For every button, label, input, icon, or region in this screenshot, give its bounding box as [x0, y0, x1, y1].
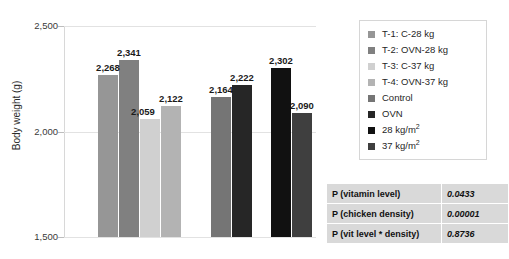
bar [271, 68, 291, 237]
legend-item-label: T-3: C-37 kg [382, 61, 434, 71]
pvalue-value-cell: 0.00001 [442, 204, 509, 224]
legend-item: Control [368, 90, 480, 106]
legend-item-label: 37 kg/m2 [382, 141, 420, 151]
legend-item-label: T-4: OVN-37 kg [382, 77, 448, 87]
y-tick-1500 [58, 237, 64, 238]
y-axis-tick-labels: 1,5002,0002,500 [18, 26, 58, 237]
chart-legend: T-1: C-28 kgT-2: OVN-28 kgT-3: C-37 kgT-… [359, 20, 487, 160]
legend-swatch-icon [368, 31, 375, 38]
gridline-2500 [64, 26, 316, 27]
bar [232, 85, 252, 237]
legend-swatch-icon [368, 79, 375, 86]
bar-value-label: 2,122 [150, 93, 192, 104]
legend-swatch-icon [368, 127, 375, 134]
bar [211, 97, 231, 237]
y-tick-2500 [58, 26, 64, 27]
legend-item-label: OVN [382, 109, 403, 119]
y-tick-label-1500: 1,500 [34, 232, 58, 242]
legend-item: OVN [368, 106, 480, 122]
legend-swatch-icon [368, 47, 375, 54]
legend-item: T-2: OVN-28 kg [368, 42, 480, 58]
legend-swatch-icon [368, 63, 375, 70]
bar-value-label: 2,268 [87, 62, 129, 73]
pvalue-name-cell: P (vit level * density) [327, 224, 442, 244]
legend-item: 37 kg/m2 [368, 138, 480, 154]
bar [161, 106, 181, 237]
bar [292, 113, 312, 237]
bar [119, 60, 139, 237]
bar-value-label: 2,302 [260, 55, 302, 66]
pvalue-value-cell: 0.8736 [442, 224, 509, 244]
y-tick-2000 [58, 132, 64, 133]
bar-value-label: 2,222 [221, 72, 263, 83]
table-row: P (chicken density)0.00001 [327, 204, 509, 224]
bar-value-label: 2,059 [122, 106, 164, 117]
pvalue-name-cell: P (chicken density) [327, 204, 442, 224]
pvalue-name-cell: P (vitamin level) [327, 184, 442, 204]
legend-item-label: Control [382, 93, 413, 103]
legend-item-label: 28 kg/m2 [382, 125, 420, 135]
legend-swatch-icon [368, 111, 375, 118]
bar-value-label: 2,090 [281, 100, 323, 111]
legend-item: T-4: OVN-37 kg [368, 74, 480, 90]
bar [98, 75, 118, 237]
legend-swatch-icon [368, 143, 375, 150]
legend-item: T-3: C-37 kg [368, 58, 480, 74]
legend-item-label: T-1: C-28 kg [382, 29, 434, 39]
table-row: P (vit level * density)0.8736 [327, 224, 509, 244]
legend-item-label: T-2: OVN-28 kg [382, 45, 448, 55]
bar [140, 119, 160, 237]
bar-value-label: 2,341 [108, 47, 150, 58]
legend-item: T-1: C-28 kg [368, 26, 480, 42]
y-tick-label-2500: 2,500 [34, 21, 58, 31]
table-row: P (vitamin level)0.0433 [327, 184, 509, 204]
legend-item: 28 kg/m2 [368, 122, 480, 138]
gridline-1500 [64, 237, 316, 238]
bar-value-label: 2,164 [200, 84, 242, 95]
y-tick-label-2000: 2,000 [34, 127, 58, 137]
legend-swatch-icon [368, 95, 375, 102]
plot-area: 2,2682,3412,0592,1222,1642,2222,3022,090 [64, 26, 316, 237]
pvalue-table: P (vitamin level)0.0433P (chicken densit… [326, 183, 509, 244]
pvalue-value-cell: 0.0433 [442, 184, 509, 204]
